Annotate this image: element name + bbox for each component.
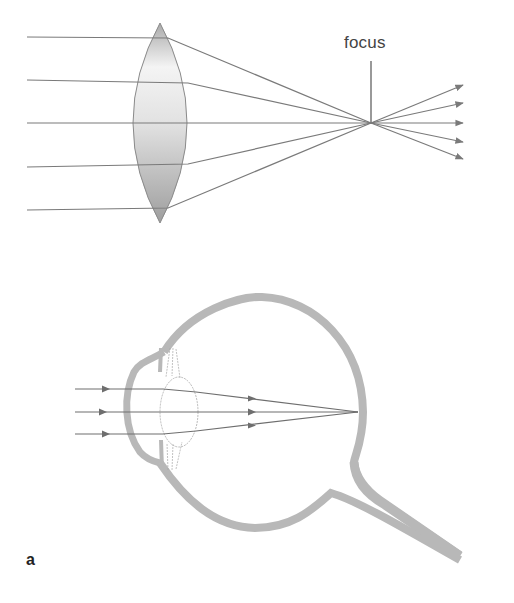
out-ray-5: [371, 123, 463, 159]
eyeball-wall-lower: [160, 463, 460, 560]
focus-label: focus: [344, 33, 386, 53]
arrow-icon: [248, 423, 256, 429]
convex-lens-diagram: [27, 23, 463, 223]
eye-ray-top: [75, 389, 358, 412]
arrow-icon: [102, 386, 110, 393]
eye-diagram: [75, 297, 460, 560]
out-ray-4: [371, 123, 463, 142]
iris-upper: [160, 348, 161, 372]
arrow-icon: [99, 409, 107, 416]
iris-lower: [161, 440, 162, 470]
out-ray-2: [371, 103, 463, 123]
ciliary-fibres: [166, 348, 182, 470]
eye-ray-bottom: [75, 412, 358, 434]
arrow-icon: [248, 409, 256, 416]
eye-rays: [75, 389, 358, 434]
ray-1: [27, 37, 371, 123]
panel-label: a: [26, 551, 35, 569]
arrow-icon: [102, 431, 110, 438]
outgoing-rays: [371, 85, 463, 159]
incoming-rays: [27, 37, 371, 210]
arrow-icon: [248, 396, 256, 402]
out-ray-1: [371, 85, 463, 123]
optics-figure: focus a: [0, 0, 514, 603]
